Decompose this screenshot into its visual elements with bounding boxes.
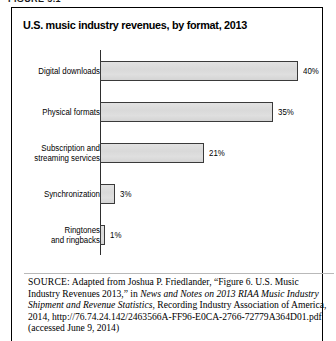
source-note: SOURCE: Adapted from Joshua P. Friedland… [28,276,328,334]
category-label: Digital downloads [0,66,100,76]
source-kicker: SOURCE: [28,276,70,287]
figure-caption: FIGURE 5.1 [8,0,61,4]
bar-wrapper: 40% [100,50,320,91]
bar-row: Synchronization 3% [12,173,324,214]
bar-chart-plot-area: Digital downloads 40% Physical formats 3… [12,50,324,255]
figure-box: U.S. music industry revenues, by format,… [11,7,323,341]
bar-physical-formats [100,102,273,122]
source-text-3: (accessed June 9, 2014) [28,322,119,333]
bar-row: Physical formats 35% [12,91,324,132]
bar-value-label: 40% [303,66,319,76]
bar-value-label: 3% [120,189,131,199]
bar-ringtones-ringbacks [100,225,105,245]
bar-value-label: 1% [110,230,121,240]
bar-digital-downloads [100,61,298,81]
source-divider [24,273,334,274]
category-label: Physical formats [0,107,100,117]
bar-wrapper: 35% [100,91,295,132]
bar-value-label: 21% [209,148,225,158]
bar-subscription-streaming [100,143,204,163]
source-url: http://76.74.24.142/2463566A-FF96-E0CA-2… [52,311,322,322]
bar-row: Ringtones and ringbacks 1% [12,214,324,255]
bar-wrapper: 1% [100,214,122,255]
category-label: Synchronization [0,189,100,199]
chart-title: U.S. music industry revenues, by format,… [23,19,247,31]
category-label: Subscription and streaming services [0,143,100,163]
bar-row: Subscription and streaming services 21% [12,132,324,173]
bar-row: Digital downloads 40% [12,50,324,91]
bar-wrapper: 21% [100,132,226,173]
bar-value-label: 35% [278,107,294,117]
category-label: Ringtones and ringbacks [0,225,100,245]
bar-synchronization [100,184,115,204]
bar-wrapper: 3% [100,173,132,214]
